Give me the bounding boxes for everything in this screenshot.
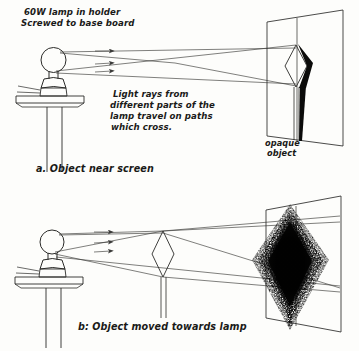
bulb-b [40, 230, 64, 254]
holder-base-a [40, 88, 67, 96]
object-label-line-1: opaque [265, 138, 300, 148]
lamp-wires-b [16, 267, 39, 274]
ray-note-line-3: lamp travel on paths [110, 111, 213, 121]
ray-note-line-1: Light rays from [113, 89, 189, 99]
object-label-line-2: object [267, 148, 297, 158]
panel-b-caption: b: Object moved towards lamp [78, 321, 247, 332]
panel-b: b: Object moved towards lamp [15, 196, 341, 348]
lamp-wires-a [17, 86, 40, 93]
panel-a: 60W lamp in holder Screwed to base board [16, 7, 343, 174]
light-rays-a [56, 45, 296, 86]
lamp-note-line-2: Screwed to base board [21, 18, 135, 28]
object-and-shadow-a [285, 44, 313, 141]
ray-note-a: Light rays from different parts of the l… [110, 89, 215, 132]
bulb-a [41, 47, 66, 72]
base-board-a [16, 96, 84, 103]
ray-note-line-2: different parts of the [110, 100, 215, 110]
stalk-shadow-b [287, 300, 293, 326]
ray-arrow-a-2 [95, 63, 112, 64]
ray-note-line-4: which cross. [111, 122, 172, 132]
base-board-edge-b [15, 284, 83, 288]
ray-arrow-a-3 [95, 71, 112, 72]
lamp-assembly-a [16, 47, 84, 172]
stand-post-b [46, 288, 61, 348]
holder-base-b [39, 269, 66, 277]
panel-a-caption: a. Object near screen [36, 163, 154, 174]
diamond-object-b [152, 231, 174, 277]
stalk-shadow-a [299, 86, 306, 141]
base-board-b [15, 277, 83, 284]
object-b [152, 231, 174, 318]
object-stalk-a [294, 87, 299, 140]
lamp-note-line-1: 60W lamp in holder [24, 7, 121, 17]
object-stalk-b [161, 277, 166, 318]
lamp-holder-a [41, 78, 66, 89]
ray-a-3 [56, 45, 296, 71]
sharp-shadow-a [298, 44, 313, 88]
lamp-holder-b [40, 259, 65, 270]
lamp-assembly-b [15, 230, 83, 348]
shadow-formation-figure: 60W lamp in holder Screwed to base board [0, 0, 359, 351]
base-board-edge-a [16, 103, 84, 107]
ray-arrow-b-3 [94, 251, 111, 252]
ray-a-4 [56, 73, 296, 84]
